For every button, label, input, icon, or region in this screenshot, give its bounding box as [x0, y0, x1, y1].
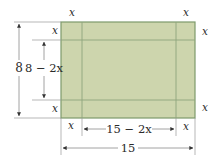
- corner-label-x: x: [202, 101, 208, 113]
- corner-label-x: x: [68, 119, 74, 131]
- box-net-diagram: 8 8 − 2x 15 − 2x 15 x x x x x x x x: [0, 0, 215, 164]
- corner-label-x: x: [202, 25, 208, 37]
- sheet-rectangle: [61, 22, 195, 118]
- inner-width-label: 15 − 2x: [106, 122, 152, 136]
- inner-height-label: 8 − 2x: [25, 61, 64, 75]
- dimension-inner-height: 8 − 2x: [25, 42, 64, 98]
- dimension-outer-width: 15: [63, 141, 193, 155]
- outer-height-label: 8: [15, 61, 23, 75]
- corner-label-x: x: [183, 6, 189, 18]
- outer-width-label: 15: [121, 141, 136, 155]
- corner-label-x: x: [52, 24, 58, 36]
- dimension-inner-width: 15 − 2x: [84, 122, 174, 136]
- corner-label-x: x: [69, 6, 75, 18]
- corner-label-x: x: [183, 120, 189, 132]
- dimension-outer-height: 8: [15, 24, 23, 116]
- corner-label-x: x: [52, 102, 58, 114]
